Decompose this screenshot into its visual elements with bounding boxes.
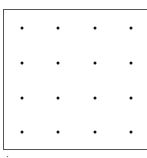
grid-dot (94, 62, 97, 65)
grid-dot (57, 131, 60, 134)
grid-dot (94, 27, 97, 30)
caption-fragment: · (6, 153, 9, 158)
grid-dot (94, 131, 97, 134)
grid-dot (57, 97, 60, 100)
grid-dot (21, 131, 24, 134)
grid-dot (21, 62, 24, 65)
dot-grid-diagram: · (0, 0, 147, 158)
grid-dot (130, 97, 133, 100)
grid-dot (130, 62, 133, 65)
grid-dot (21, 27, 24, 30)
grid-dot (130, 131, 133, 134)
grid-dot (130, 27, 133, 30)
grid-dot (94, 97, 97, 100)
grid-dot (57, 27, 60, 30)
grid-dot (57, 62, 60, 65)
grid-dot (21, 97, 24, 100)
grid-frame (3, 9, 147, 150)
